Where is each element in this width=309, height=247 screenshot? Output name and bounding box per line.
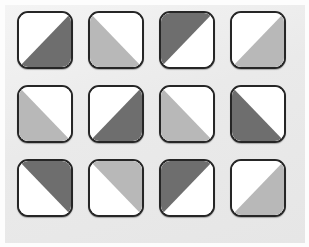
tile-r3c3[interactable] xyxy=(159,159,215,217)
tile-r2c2[interactable] xyxy=(88,85,144,143)
triangle-half-bottom-right-icon xyxy=(89,86,143,142)
tile-r1c3[interactable] xyxy=(159,11,215,69)
triangle-half-top-right-icon xyxy=(89,160,143,216)
triangle-half-bottom-left-icon xyxy=(231,86,285,142)
triangle-half-bottom-right-icon xyxy=(231,12,285,68)
tile-row xyxy=(5,159,305,217)
tile-grid xyxy=(5,5,305,243)
tile-r2c1[interactable] xyxy=(17,85,73,143)
triangle-half-bottom-right-icon xyxy=(231,160,285,216)
triangle-half-bottom-left-icon xyxy=(18,86,72,142)
tile-grid-panel xyxy=(0,0,309,247)
tile-r3c1[interactable] xyxy=(17,159,73,217)
tile-r2c3[interactable] xyxy=(159,85,215,143)
tile-row xyxy=(5,85,305,143)
tile-r1c2[interactable] xyxy=(88,11,144,69)
tile-r3c2[interactable] xyxy=(88,159,144,217)
triangle-half-top-left-icon xyxy=(160,12,214,68)
tile-r2c4[interactable] xyxy=(230,85,286,143)
triangle-half-bottom-left-icon xyxy=(160,86,214,142)
triangle-half-bottom-right-icon xyxy=(18,12,72,68)
tile-r3c4[interactable] xyxy=(230,159,286,217)
triangle-half-top-right-icon xyxy=(18,160,72,216)
triangle-half-bottom-left-icon xyxy=(89,12,143,68)
triangle-half-top-left-icon xyxy=(160,160,214,216)
tile-row xyxy=(5,11,305,69)
tile-r1c4[interactable] xyxy=(230,11,286,69)
tile-r1c1[interactable] xyxy=(17,11,73,69)
